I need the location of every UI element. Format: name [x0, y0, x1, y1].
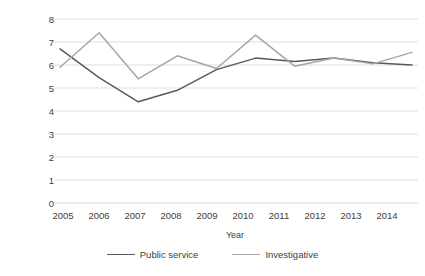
series-line-investigative: [60, 33, 412, 79]
legend-swatch-investigative: [232, 254, 260, 255]
series-line-public-service: [60, 49, 412, 102]
x-axis-title: Year: [55, 230, 415, 240]
chart-legend: Public service Investigative: [0, 249, 425, 260]
legend-item-investigative: Investigative: [232, 249, 318, 260]
series-lines: [60, 33, 412, 102]
legend-swatch-public-service: [107, 254, 135, 255]
legend-item-public-service: Public service: [107, 249, 199, 260]
legend-label-public-service: Public service: [140, 249, 199, 260]
legend-label-investigative: Investigative: [265, 249, 318, 260]
line-chart: Percentage of annual Pulitzer entries 8 …: [0, 0, 425, 276]
gridlines: [54, 19, 418, 203]
